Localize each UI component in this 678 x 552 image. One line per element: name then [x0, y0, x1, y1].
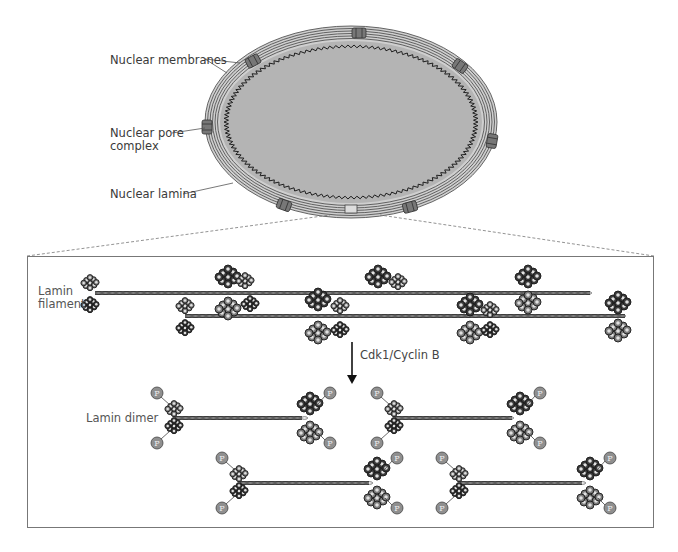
zoom-region-marker	[345, 205, 357, 213]
nucleoplasm	[220, 41, 482, 203]
label-nuclear-membranes: Nuclear membranes	[110, 54, 227, 67]
label-nuclear-pore-complex-line2: complex	[110, 140, 159, 153]
lamina-detail-panel	[27, 256, 654, 528]
label-lamin-filament-line2: filament	[38, 298, 86, 311]
label-cdk1-cyclin-b: Cdk1/Cyclin B	[360, 349, 440, 362]
label-lamin-dimer: Lamin dimer	[86, 412, 158, 425]
zoom-lines	[27, 215, 654, 256]
label-nuclear-lamina: Nuclear lamina	[110, 188, 197, 201]
